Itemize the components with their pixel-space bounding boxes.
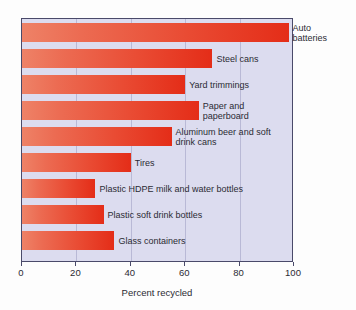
bar: [22, 153, 131, 172]
bar-label: Glass containers: [114, 235, 185, 246]
bar: [22, 23, 289, 42]
bar-row: Auto batteries: [22, 23, 294, 42]
bar-row: Yard trimmings: [22, 75, 294, 94]
x-axis-title: Percent recycled: [21, 287, 293, 298]
bar-label: Steel cans: [212, 53, 258, 64]
bar-chart-figure: Auto batteriesSteel cansYard trimmingsPa…: [0, 0, 356, 310]
x-tick-label: 80: [233, 267, 244, 278]
bar: [22, 101, 199, 120]
plot-area: Auto batteriesSteel cansYard trimmingsPa…: [21, 18, 293, 262]
x-tick-label: 20: [70, 267, 81, 278]
x-tick-mark: [239, 262, 240, 266]
bar-label: Plastic HDPE milk and water bottles: [95, 183, 243, 194]
bar-label: Auto batteries: [289, 22, 328, 43]
bar: [22, 205, 104, 224]
bar-label: Yard trimmings: [185, 79, 249, 90]
x-tick-mark: [21, 262, 22, 266]
x-tick-mark: [130, 262, 131, 266]
bar-label: Tires: [131, 157, 155, 168]
x-tick-mark: [75, 262, 76, 266]
bar-label: Paper and paperboard: [199, 100, 249, 121]
bar: [22, 179, 95, 198]
bar: [22, 127, 172, 146]
bar: [22, 75, 185, 94]
bar-row: Paper and paperboard: [22, 101, 294, 120]
bar-row: Tires: [22, 153, 294, 172]
bar-row: Glass containers: [22, 231, 294, 250]
bar-row: Plastic soft drink bottles: [22, 205, 294, 224]
bar-row: Aluminum beer and soft drink cans: [22, 127, 294, 146]
bar-label: Plastic soft drink bottles: [104, 209, 203, 220]
x-tick-label: 40: [125, 267, 136, 278]
x-tick-label: 100: [285, 267, 301, 278]
bar-row: Steel cans: [22, 49, 294, 68]
x-tick-label: 60: [179, 267, 190, 278]
bar-row: Plastic HDPE milk and water bottles: [22, 179, 294, 198]
x-tick-label: 0: [18, 267, 23, 278]
bar: [22, 231, 114, 250]
x-tick-mark: [184, 262, 185, 266]
x-axis: 020406080100: [21, 262, 293, 280]
bar: [22, 49, 212, 68]
x-tick-mark: [293, 262, 294, 266]
bar-label: Aluminum beer and soft drink cans: [172, 126, 271, 147]
